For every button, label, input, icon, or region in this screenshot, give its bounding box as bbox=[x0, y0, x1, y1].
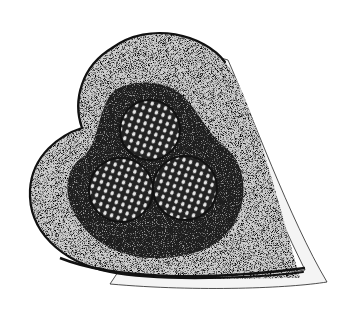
illustration-canvas bbox=[0, 0, 345, 318]
heart-tray-illustration bbox=[0, 0, 345, 318]
sphere-right bbox=[153, 156, 217, 220]
sphere-left bbox=[89, 158, 153, 222]
sphere-top bbox=[120, 100, 180, 160]
